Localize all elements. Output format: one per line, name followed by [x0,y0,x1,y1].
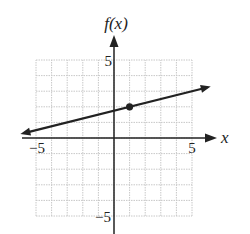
point-dot [126,103,133,110]
x-axis-arrow-icon [205,134,217,143]
line-arrow-right-icon [200,85,211,93]
function-line [20,85,210,135]
line-arrow-left-icon [20,128,31,136]
x-axis-label: x [220,128,229,147]
coordinate-plane: x f(x) −5 5 5 −5 [0,0,250,234]
x-min-tick-label: −5 [29,140,45,156]
y-min-tick-label: −5 [95,209,111,225]
y-axis-label: f(x) [104,14,128,33]
y-max-tick-label: 5 [105,53,113,69]
y-axis-arrow-icon [110,35,119,47]
x-max-tick-label: 5 [188,140,196,156]
